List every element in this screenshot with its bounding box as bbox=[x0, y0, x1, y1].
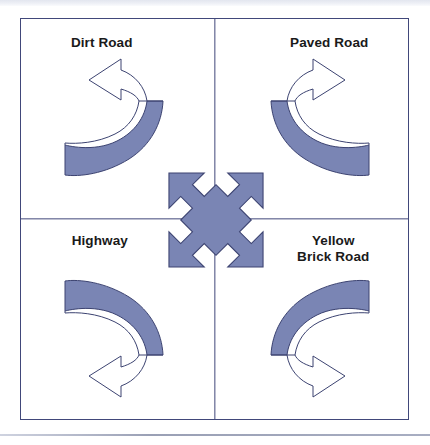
quadrant-label-line-1: Yellow bbox=[237, 233, 430, 249]
curved-arrow-counterclockwise-icon bbox=[59, 57, 177, 187]
quadrant-label-yellow-brick-road: Yellow Brick Road bbox=[237, 233, 430, 265]
four-way-diagonal-arrow-icon bbox=[167, 171, 265, 269]
quadrant-label-dirt-road: Dirt Road bbox=[5, 35, 199, 51]
quadrant-label-paved-road: Paved Road bbox=[233, 35, 427, 51]
page-top-band bbox=[0, 0, 430, 6]
page-canvas: Dirt Road Paved Road bbox=[0, 0, 430, 445]
diagram-frame: Dirt Road Paved Road bbox=[20, 18, 409, 420]
page-bottom-fill bbox=[0, 436, 430, 445]
curved-arrow-down-left-icon bbox=[59, 269, 177, 399]
curved-arrow-down-right-icon bbox=[257, 269, 375, 399]
curved-arrow-clockwise-icon bbox=[257, 57, 375, 187]
quadrant-label-line-2: Brick Road bbox=[237, 249, 430, 265]
